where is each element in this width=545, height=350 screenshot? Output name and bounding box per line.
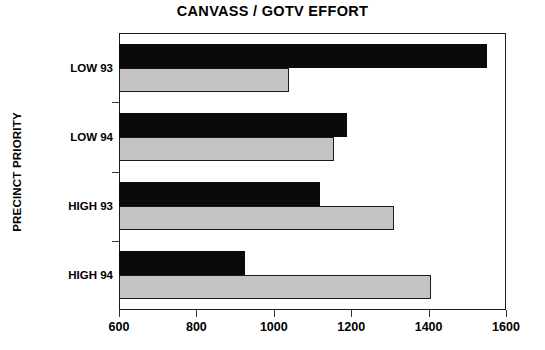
y-axis-tick-label: HIGH 93 [13, 200, 113, 212]
x-axis-tick-label: 1400 [394, 320, 464, 334]
x-axis-tick-mark [196, 310, 197, 317]
x-axis-tick-label: 800 [161, 320, 231, 334]
x-axis-tick-mark [429, 310, 430, 317]
x-axis-tick-mark [119, 310, 120, 317]
y-axis-tick-label: LOW 93 [13, 62, 113, 74]
y-axis-tick-label: LOW 94 [13, 131, 113, 143]
x-axis-tick-label: 1000 [239, 320, 309, 334]
bar-dark-low-94 [119, 113, 347, 137]
bar-chart: CANVASS / GOTV EFFORT PRECINCT PRIORITY … [0, 0, 545, 350]
bar-light-high-93 [119, 206, 394, 230]
x-axis-tick-label: 1200 [316, 320, 386, 334]
bar-dark-high-94 [119, 251, 245, 275]
bar-dark-low-93 [119, 44, 487, 68]
y-axis-tick-mark [112, 172, 119, 173]
x-axis-tick-mark [506, 310, 507, 317]
bar-light-high-94 [119, 275, 431, 299]
bar-light-low-94 [119, 137, 334, 161]
y-axis-title-text: PRECINCT PRIORITY [11, 112, 23, 232]
x-axis-tick-mark [351, 310, 352, 317]
x-axis-tick-mark [274, 310, 275, 317]
x-axis-tick-label: 1600 [471, 320, 541, 334]
chart-title: CANVASS / GOTV EFFORT [0, 3, 545, 19]
bar-light-low-93 [119, 68, 289, 92]
y-axis-tick-label: HIGH 94 [13, 269, 113, 281]
y-axis-tick-mark [112, 102, 119, 103]
x-axis-tick-label: 600 [84, 320, 154, 334]
bar-dark-high-93 [119, 182, 320, 206]
y-axis-tick-mark [112, 241, 119, 242]
